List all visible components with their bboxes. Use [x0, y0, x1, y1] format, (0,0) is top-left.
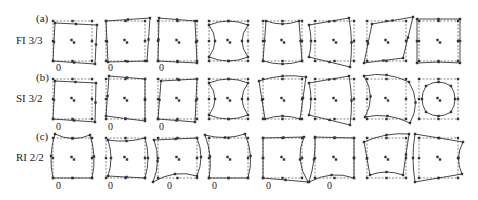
mode-shapes-grid	[0, 0, 478, 200]
